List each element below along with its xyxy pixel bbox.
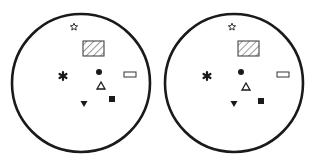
left-panel	[12, 14, 150, 152]
right-panel	[165, 14, 303, 152]
down-triangle-icon	[231, 101, 238, 107]
open-rectangle	[277, 72, 289, 77]
asterisk-icon	[60, 72, 67, 80]
filled-square-icon	[258, 98, 264, 104]
open-triangle-icon	[242, 83, 250, 90]
field-circle	[165, 14, 303, 152]
star-icon	[70, 23, 77, 30]
asterisk-icon	[204, 72, 211, 80]
open-rectangle	[124, 72, 136, 77]
down-triangle-icon	[81, 101, 88, 107]
filled-square-icon	[109, 96, 115, 102]
hatched-rectangle	[83, 41, 104, 56]
filled-circle-icon	[238, 69, 244, 75]
hatched-rectangle	[238, 41, 259, 56]
open-triangle-icon	[97, 82, 105, 89]
filled-circle-icon	[96, 69, 102, 75]
star-icon	[228, 23, 235, 30]
diagram-canvas	[0, 0, 314, 168]
field-circle	[12, 14, 150, 152]
